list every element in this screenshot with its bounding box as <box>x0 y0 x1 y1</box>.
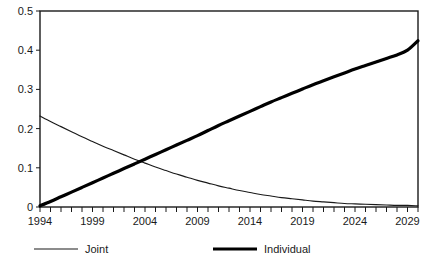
x-axis-labels: 19941999200420092014201920242029 <box>28 215 420 227</box>
x-tick-label: 1994 <box>28 215 52 227</box>
y-tick-label: 0.4 <box>18 44 33 56</box>
line-chart: 00.10.20.30.40.5 19941999200420092014201… <box>0 0 431 267</box>
x-tick-label: 2029 <box>395 215 419 227</box>
x-tick-label: 2004 <box>133 215 157 227</box>
y-tick-label: 0.3 <box>18 83 33 95</box>
x-tick-label: 1999 <box>80 215 104 227</box>
x-tick-label: 2019 <box>290 215 314 227</box>
y-tick-label: 0.5 <box>18 5 33 17</box>
x-tick-label: 2014 <box>238 215 262 227</box>
series-line-joint <box>40 116 418 206</box>
y-tick-label: 0 <box>27 201 33 213</box>
x-axis-ticks <box>40 207 418 212</box>
x-tick-label: 2024 <box>343 215 367 227</box>
y-tick-label: 0.1 <box>18 162 33 174</box>
y-axis-labels: 00.10.20.30.40.5 <box>18 5 33 213</box>
plot-frame <box>40 11 418 207</box>
series-line-individual <box>40 41 418 206</box>
y-tick-label: 0.2 <box>18 123 33 135</box>
chart-legend: Joint Individual <box>34 243 310 255</box>
legend-label-joint: Joint <box>85 243 108 255</box>
chart-container: 00.10.20.30.40.5 19941999200420092014201… <box>0 0 431 267</box>
x-tick-label: 2009 <box>185 215 209 227</box>
legend-label-individual: Individual <box>264 243 310 255</box>
